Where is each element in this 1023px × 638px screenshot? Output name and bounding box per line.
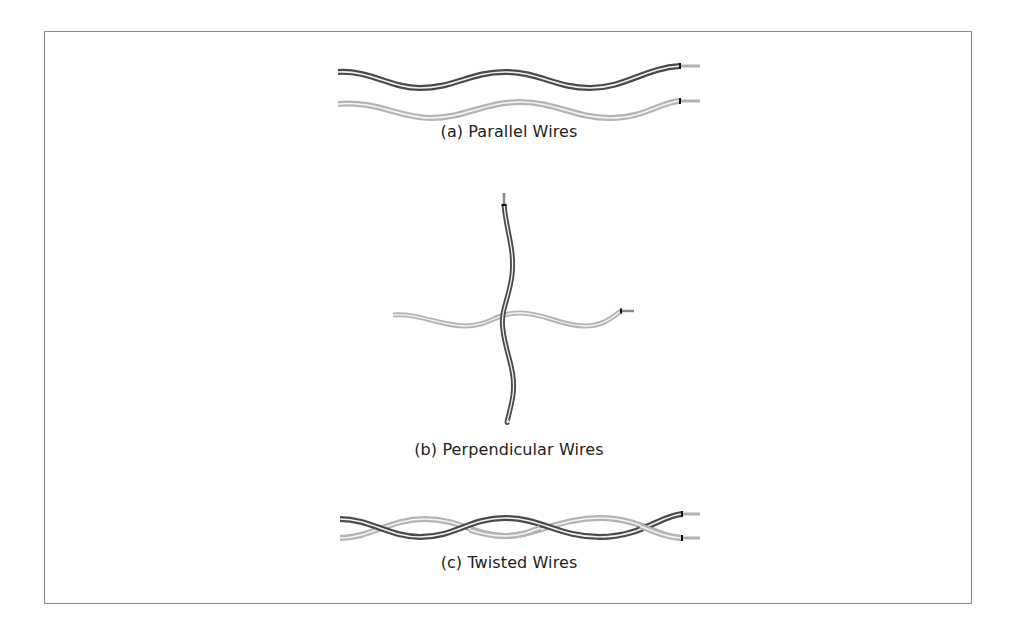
caption-parallel-wires: (a) Parallel Wires	[441, 122, 578, 141]
perpendicular-wires	[393, 193, 634, 423]
perpendicular-light-wire	[393, 309, 634, 327]
caption-perpendicular-wires: (b) Perpendicular Wires	[414, 440, 603, 459]
wires-diagram	[0, 0, 1023, 638]
parallel-wires	[338, 63, 700, 118]
twisted-wires	[340, 511, 700, 541]
parallel-light-wire	[338, 98, 700, 118]
parallel-dark-wire	[338, 63, 700, 88]
perpendicular-dark-wire	[502, 193, 514, 423]
caption-twisted-wires: (c) Twisted Wires	[441, 553, 578, 572]
